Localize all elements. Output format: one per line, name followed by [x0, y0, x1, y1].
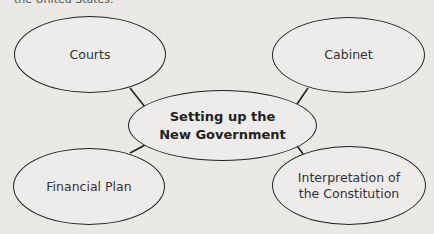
- node-label: Financial Plan: [46, 179, 131, 195]
- node-center: Setting up the New Government: [128, 90, 317, 161]
- node-courts: Courts: [14, 16, 166, 93]
- node-interpretation: Interpretation of the Constitution: [272, 146, 426, 225]
- node-label: Cabinet: [324, 47, 372, 63]
- node-label: Interpretation of the Constitution: [289, 170, 409, 202]
- center-label: Setting up the New Government: [153, 108, 293, 144]
- node-financial-plan: Financial Plan: [13, 148, 165, 225]
- node-cabinet: Cabinet: [272, 17, 425, 93]
- node-label: Courts: [70, 47, 111, 63]
